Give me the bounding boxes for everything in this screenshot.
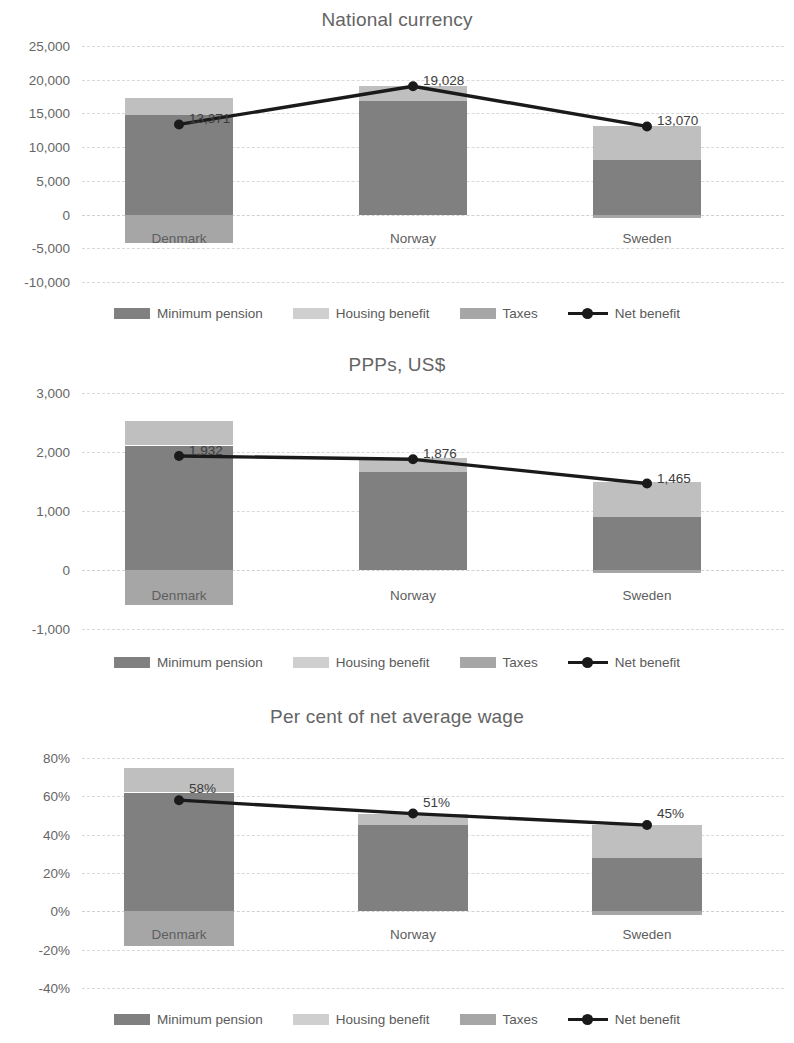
legend-line-marker-icon — [568, 308, 608, 319]
plot-area: 80%60%40%20%0%-20%-40%DenmarkNorwaySwede… — [0, 758, 794, 988]
legend-item-label: Taxes — [503, 1012, 538, 1027]
legend-swatch-pension-icon — [114, 308, 150, 319]
data-point-label: 19,028 — [423, 73, 464, 88]
legend-item-net[interactable]: Net benefit — [568, 306, 680, 321]
chart-legend: Minimum pensionHousing benefitTaxesNet b… — [0, 1012, 794, 1027]
legend-item-pension[interactable]: Minimum pension — [114, 306, 263, 321]
legend-item-label: Net benefit — [615, 655, 680, 670]
legend-swatch-taxes-icon — [460, 1014, 496, 1025]
data-point-marker — [642, 121, 652, 131]
gridline — [82, 629, 784, 630]
legend-item-label: Housing benefit — [336, 306, 430, 321]
data-point-marker — [174, 451, 184, 461]
legend-swatch-housing-icon — [293, 1014, 329, 1025]
plot-area: 25,00020,00015,00010,0005,0000-5,000-10,… — [0, 46, 794, 282]
legend-item-housing[interactable]: Housing benefit — [293, 1012, 430, 1027]
legend-item-pension[interactable]: Minimum pension — [114, 1012, 263, 1027]
data-point-label: 1,465 — [657, 470, 691, 485]
net-benefit-line — [0, 393, 794, 629]
legend-swatch-pension-icon — [114, 657, 150, 668]
data-point-marker — [174, 119, 184, 129]
data-point-label: 1,876 — [423, 446, 457, 461]
legend-item-taxes[interactable]: Taxes — [460, 306, 538, 321]
legend-item-housing[interactable]: Housing benefit — [293, 655, 430, 670]
data-point-marker — [642, 820, 652, 830]
legend-item-net[interactable]: Net benefit — [568, 655, 680, 670]
data-point-marker — [408, 809, 418, 819]
legend-swatch-housing-icon — [293, 308, 329, 319]
chart-title: National currency — [0, 0, 794, 34]
data-point-label: 13,070 — [657, 113, 698, 128]
data-point-marker — [408, 81, 418, 91]
legend-swatch-pension-icon — [114, 1014, 150, 1025]
chart-title: PPPs, US$ — [0, 345, 794, 379]
legend-item-taxes[interactable]: Taxes — [460, 655, 538, 670]
legend-swatch-housing-icon — [293, 657, 329, 668]
charts-root: National currency25,00020,00015,00010,00… — [0, 0, 794, 1043]
legend-item-label: Taxes — [503, 655, 538, 670]
legend-item-label: Net benefit — [615, 306, 680, 321]
legend-item-housing[interactable]: Housing benefit — [293, 306, 430, 321]
legend-item-label: Minimum pension — [157, 306, 263, 321]
data-point-marker — [408, 454, 418, 464]
data-point-marker — [174, 795, 184, 805]
legend-item-pension[interactable]: Minimum pension — [114, 655, 263, 670]
chart-legend: Minimum pensionHousing benefitTaxesNet b… — [0, 655, 794, 670]
chart-1: National currency25,00020,00015,00010,00… — [0, 0, 794, 345]
gridline — [82, 282, 784, 283]
legend-item-label: Housing benefit — [336, 1012, 430, 1027]
chart-legend: Minimum pensionHousing benefitTaxesNet b… — [0, 306, 794, 321]
legend-item-label: Taxes — [503, 306, 538, 321]
net-benefit-line — [0, 758, 794, 988]
chart-3: Per cent of net average wage80%60%40%20%… — [0, 697, 794, 1043]
data-point-marker — [642, 479, 652, 489]
legend-swatch-taxes-icon — [460, 308, 496, 319]
legend-item-label: Minimum pension — [157, 1012, 263, 1027]
plot-area: 3,0002,0001,0000-1,000DenmarkNorwaySwede… — [0, 393, 794, 629]
data-point-label: 51% — [423, 794, 450, 809]
chart-title: Per cent of net average wage — [0, 697, 794, 731]
legend-line-marker-icon — [568, 657, 608, 668]
data-point-label: 58% — [189, 781, 216, 796]
legend-item-taxes[interactable]: Taxes — [460, 1012, 538, 1027]
legend-swatch-taxes-icon — [460, 657, 496, 668]
chart-2: PPPs, US$3,0002,0001,0000-1,000DenmarkNo… — [0, 345, 794, 697]
legend-item-label: Net benefit — [615, 1012, 680, 1027]
legend-item-label: Housing benefit — [336, 655, 430, 670]
legend-item-net[interactable]: Net benefit — [568, 1012, 680, 1027]
gridline — [82, 988, 784, 989]
data-point-label: 1,932 — [189, 443, 223, 458]
data-point-label: 13,371 — [189, 111, 230, 126]
net-benefit-line — [0, 46, 794, 282]
data-point-label: 45% — [657, 806, 684, 821]
legend-line-marker-icon — [568, 1014, 608, 1025]
legend-item-label: Minimum pension — [157, 655, 263, 670]
